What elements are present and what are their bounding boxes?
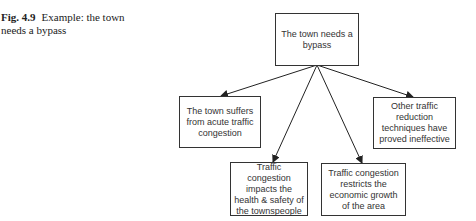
root-node: The town needs a bypass (275, 13, 359, 66)
child-node-3: Traffic congestion restricts the economi… (321, 163, 406, 216)
child-node-2: Traffic congestion impacts the health & … (230, 162, 308, 216)
arrow-to-child-3 (317, 65, 362, 163)
arrow-to-child-2 (273, 65, 317, 162)
root-node-text: The town needs a bypass (279, 29, 355, 51)
arrow-to-child-4 (317, 65, 413, 97)
arrow-to-child-1 (221, 65, 317, 96)
child-node-4: Other traffic reduction techniques have … (373, 97, 456, 149)
child-node-text: Other traffic reduction techniques have … (377, 101, 452, 145)
child-node-1: The town suffers from acute traffic cong… (179, 96, 261, 148)
child-node-text: The town suffers from acute traffic cong… (183, 106, 257, 139)
child-node-text: Traffic congestion restricts the economi… (325, 168, 402, 212)
child-node-text: Traffic congestion impacts the health & … (234, 162, 304, 217)
